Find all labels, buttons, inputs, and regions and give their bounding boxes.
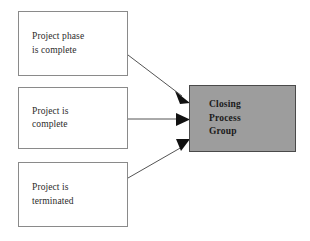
arrow-phase-complete bbox=[128, 55, 190, 104]
arrow-line bbox=[128, 147, 182, 178]
source-box-label: Project is complete bbox=[19, 105, 69, 132]
source-box-phase-complete[interactable]: Project phase is complete bbox=[18, 11, 128, 76]
source-box-label: Project phase is complete bbox=[19, 30, 84, 57]
arrowhead bbox=[176, 113, 190, 126]
source-box-project-complete[interactable]: Project is complete bbox=[18, 87, 128, 149]
target-box-closing-process-group[interactable]: Closing Process Group bbox=[189, 85, 296, 152]
arrow-project-complete bbox=[128, 113, 190, 126]
source-box-label: Project is terminated bbox=[19, 181, 74, 208]
arrow-line bbox=[128, 55, 182, 96]
arrow-project-terminated bbox=[128, 139, 190, 178]
source-box-project-terminated[interactable]: Project is terminated bbox=[18, 162, 128, 227]
arrowhead bbox=[175, 91, 190, 104]
target-box-label: Closing Process Group bbox=[190, 98, 241, 139]
diagram-canvas: Project phase is complete Project is com… bbox=[0, 0, 310, 241]
